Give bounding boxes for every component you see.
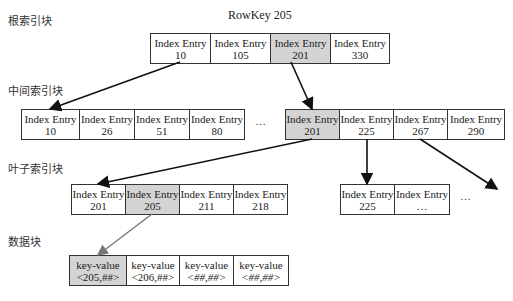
arrow-leaf-to-data [98, 214, 152, 255]
arrow-root-to-middle-right [291, 62, 312, 109]
arrow-middle-to-leaf-left [98, 139, 312, 184]
arrow-root-to-middle-left [50, 62, 180, 109]
arrow-middle-to-next [420, 139, 497, 189]
pointer-arrows [0, 0, 513, 301]
